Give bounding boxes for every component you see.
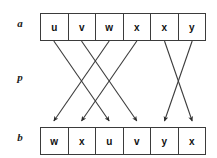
permutation-arrow bbox=[54, 41, 109, 121]
permutation-arrow bbox=[82, 41, 137, 121]
target-cell: u bbox=[96, 128, 124, 154]
target-cell: x bbox=[179, 128, 206, 154]
row-label-b: b bbox=[10, 131, 30, 143]
source-cell: v bbox=[69, 14, 97, 40]
source-cell: w bbox=[96, 14, 124, 40]
source-cell: x bbox=[124, 14, 152, 40]
permutation-arrow bbox=[82, 41, 137, 121]
target-array-row: w x u v y x bbox=[40, 127, 206, 155]
source-cell: u bbox=[41, 14, 69, 40]
row-label-a: a bbox=[10, 17, 30, 29]
row-label-p: p bbox=[10, 71, 30, 83]
permutation-arrow bbox=[165, 41, 193, 121]
target-cell: v bbox=[124, 128, 152, 154]
target-cell: x bbox=[69, 128, 97, 154]
source-cell: y bbox=[179, 14, 206, 40]
target-cell: w bbox=[41, 128, 69, 154]
target-cell: y bbox=[151, 128, 179, 154]
permutation-arrow bbox=[165, 41, 193, 121]
permutation-arrow bbox=[54, 41, 109, 121]
source-array-row: u v w x x y bbox=[40, 13, 206, 41]
source-cell: x bbox=[151, 14, 179, 40]
permutation-figure: a p b u v w x x y w x u v y x bbox=[0, 0, 217, 158]
